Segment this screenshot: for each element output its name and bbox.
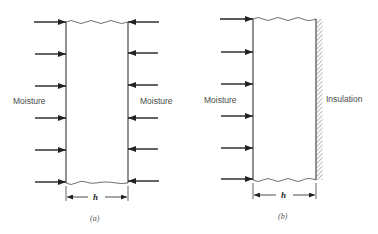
break-line-top (66, 21, 128, 24)
break-line-top-b (253, 18, 316, 21)
dimension-label-b: h (281, 190, 286, 200)
panel-b: Moisture Insulation h (b) (204, 18, 363, 222)
caption-a: (a) (90, 214, 100, 223)
moisture-label-right: Moisture (140, 96, 173, 106)
dimension-label-a: h (93, 192, 98, 202)
break-line-bottom (66, 181, 128, 184)
insulation-label: Insulation (326, 94, 363, 104)
caption-b: (b) (278, 212, 288, 221)
break-line-bottom-b (253, 179, 316, 182)
moisture-diffusion-diagram: Moisture Moisture h (a) Moisture Insulat… (0, 0, 378, 234)
insulation-hatch (317, 19, 323, 180)
panel-a: Moisture Moisture h (a) (13, 21, 173, 224)
moisture-label-left: Moisture (13, 96, 46, 106)
dimension-h-a: h (66, 186, 128, 202)
moisture-label-b: Moisture (204, 95, 237, 105)
dimension-h-b: h (253, 183, 316, 200)
